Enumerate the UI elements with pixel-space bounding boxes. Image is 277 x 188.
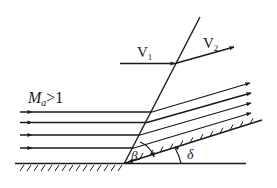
shock-wave-line	[124, 17, 200, 164]
v1-label: V1	[137, 44, 152, 62]
delta-label: δ	[187, 147, 194, 162]
beta-label: β	[130, 148, 138, 163]
upstream-streamlines	[20, 112, 152, 148]
wall-hatching	[20, 165, 122, 171]
delta-angle-arc	[175, 148, 181, 163]
oblique-shock-diagram: V1 V2 Ma>1 β δ	[0, 0, 277, 188]
deflected-streamline-4	[134, 113, 251, 148]
mach-label: Ma>1	[27, 89, 63, 108]
bottom-wall	[15, 164, 246, 172]
v2-label: V2	[203, 35, 218, 53]
